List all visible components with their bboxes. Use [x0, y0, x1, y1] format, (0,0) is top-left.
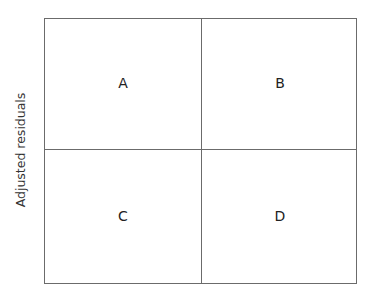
horizontal-divider [45, 149, 356, 150]
quadrant-grid: A B C D [44, 18, 357, 284]
vertical-divider [201, 19, 202, 283]
quadrant-c-label: C [113, 208, 133, 224]
quadrant-a-label: A [113, 75, 133, 91]
y-axis-label: Adjusted residuals [13, 93, 28, 208]
quadrant-b-label: B [270, 75, 290, 91]
quadrant-d-label: D [270, 208, 290, 224]
